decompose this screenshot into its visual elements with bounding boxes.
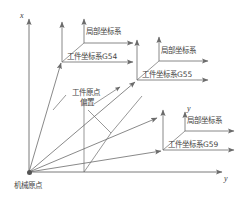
g55-local-label: 局部坐标系 xyxy=(161,47,196,55)
machine-origin-dot xyxy=(27,170,32,175)
machine-origin-label: 机械原点 xyxy=(14,182,42,190)
offset-vector-g59 xyxy=(29,151,161,172)
machine-x-axis-label: x xyxy=(20,12,24,20)
offset-vector-g54 xyxy=(29,63,61,172)
offset-annotation-line2: 偏置 xyxy=(80,99,94,107)
offset-vector-g59-local xyxy=(29,118,157,172)
g54-local-label: 局部坐标系 xyxy=(86,28,121,36)
g59-workpiece-label: 工件坐标系G59 xyxy=(168,141,218,149)
g59-local-label: 局部坐标系 xyxy=(187,117,222,125)
offset-leader-lines xyxy=(53,87,142,172)
coordinate-system-diagram: x y 机械原点 局部坐标系 工件坐标系G54 局部坐标系 工件坐标系G55 局… xyxy=(0,0,251,206)
g59-local-y-axis-label: y xyxy=(187,105,191,113)
machine-y-axis-label: y xyxy=(224,175,228,183)
offset-annotation-line1: 工件原点 xyxy=(72,89,100,97)
diagram-canvas xyxy=(0,0,251,206)
g55-workpiece-label: 工件坐标系G55 xyxy=(142,71,192,79)
g54-workpiece-label: 工件坐标系G54 xyxy=(67,53,117,61)
